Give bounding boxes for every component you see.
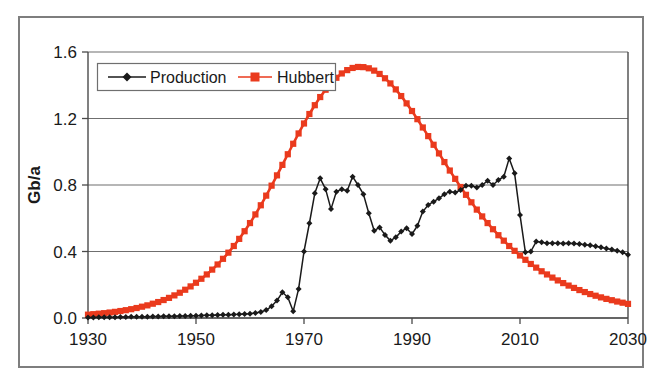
data-point-marker [360, 64, 366, 70]
data-point-marker [598, 294, 604, 300]
data-point-marker [139, 304, 145, 310]
data-point-marker [139, 314, 145, 320]
data-point-marker [560, 280, 566, 286]
data-point-marker [539, 268, 545, 274]
y-tick-label: 1.2 [53, 110, 77, 129]
data-point-marker [425, 133, 431, 139]
data-point-marker [479, 213, 485, 219]
data-point-marker [134, 305, 140, 311]
data-point-marker [344, 67, 350, 73]
data-point-marker [593, 293, 599, 299]
data-point-marker [485, 220, 491, 226]
data-point-marker [625, 252, 631, 258]
data-point-marker [576, 241, 582, 247]
data-point-marker [447, 167, 453, 173]
data-point-marker [236, 236, 242, 242]
data-point-marker [544, 271, 550, 277]
data-point-marker [333, 189, 339, 195]
data-point-marker [279, 162, 285, 168]
data-point-marker [614, 298, 620, 304]
data-point-marker [506, 155, 512, 161]
data-point-marker [571, 241, 577, 247]
data-point-marker [414, 116, 420, 122]
data-point-marker [306, 220, 312, 226]
data-point-marker [468, 183, 474, 189]
data-point-marker [182, 287, 188, 293]
data-point-marker [566, 240, 572, 246]
y-axis-title: Gb/a [25, 166, 44, 204]
data-point-marker [215, 312, 221, 318]
data-point-marker [393, 86, 399, 92]
data-point-marker [150, 301, 156, 307]
data-point-marker [474, 207, 480, 213]
data-point-marker [117, 314, 123, 320]
data-point-marker [258, 202, 264, 208]
data-point-marker [171, 292, 177, 298]
data-series [85, 64, 631, 321]
y-tick-label: 0.4 [53, 243, 77, 262]
data-point-marker [236, 311, 242, 317]
data-point-marker [447, 189, 453, 195]
data-point-marker [431, 142, 437, 148]
data-point-marker [436, 150, 442, 156]
data-point-marker [603, 246, 609, 252]
data-point-marker [134, 314, 140, 320]
data-point-marker [587, 291, 593, 297]
data-point-marker [231, 243, 237, 249]
data-point-marker [209, 312, 215, 318]
data-point-marker [161, 297, 167, 303]
data-point-marker [528, 261, 534, 267]
data-point-marker [252, 211, 258, 217]
data-point-marker [166, 295, 172, 301]
data-point-marker [598, 244, 604, 250]
data-point-marker [285, 151, 291, 157]
data-point-marker [355, 64, 361, 70]
data-point-marker [350, 65, 356, 71]
data-point-marker [517, 252, 523, 258]
data-point-marker [112, 309, 118, 315]
data-point-marker [242, 311, 248, 317]
x-tick-label: 1950 [177, 330, 215, 349]
data-point-marker [231, 312, 237, 318]
data-point-marker [263, 193, 269, 199]
data-point-marker [387, 80, 393, 86]
data-point-marker [566, 282, 572, 288]
data-point-marker [290, 141, 296, 147]
data-point-marker [528, 249, 534, 255]
data-point-marker [377, 71, 383, 77]
x-tick-label: 2010 [501, 330, 539, 349]
data-point-marker [582, 289, 588, 295]
square-marker-icon [251, 73, 260, 82]
data-point-marker [258, 309, 264, 315]
x-tick-label: 1930 [69, 330, 107, 349]
x-tick-label: 2030 [609, 330, 647, 349]
data-point-marker [441, 159, 447, 165]
x-tick-label: 1970 [285, 330, 323, 349]
data-point-marker [312, 102, 318, 108]
data-point-marker [269, 183, 275, 189]
data-point-marker [549, 275, 555, 281]
data-point-marker [398, 93, 404, 99]
data-point-marker [366, 210, 372, 216]
data-point-marker [117, 308, 123, 314]
data-point-marker [382, 75, 388, 81]
y-tick-label: 0.0 [53, 309, 77, 328]
data-point-marker [420, 124, 426, 130]
data-point-marker [609, 297, 615, 303]
data-point-marker [312, 190, 318, 196]
data-point-marker [404, 100, 410, 106]
data-point-marker [501, 238, 507, 244]
data-point-marker [587, 242, 593, 248]
chart-page: 0.00.40.81.21.6193019501970199020102030 … [0, 0, 659, 389]
data-point-marker [296, 286, 302, 292]
data-point-marker [215, 261, 221, 267]
data-point-marker [366, 65, 372, 71]
data-point-marker [274, 172, 280, 178]
data-point-marker [555, 240, 561, 246]
chart-legend[interactable]: Production Hubbert [98, 64, 336, 91]
data-point-marker [463, 192, 469, 198]
series-hubbert [85, 64, 631, 318]
data-point-marker [549, 240, 555, 246]
data-point-marker [512, 248, 518, 254]
data-point-marker [328, 206, 334, 212]
